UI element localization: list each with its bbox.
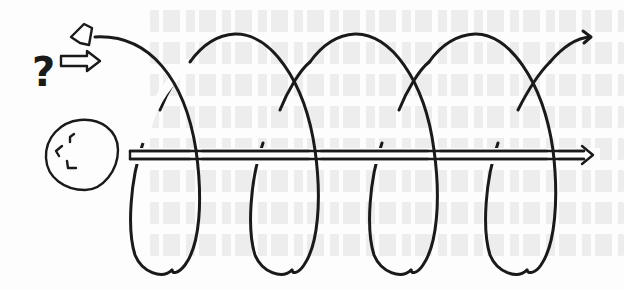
helix-diagram: ? xyxy=(0,0,624,290)
question-mark-icon: ? xyxy=(32,49,55,95)
axis-double-arrow xyxy=(120,146,600,164)
bell-icon xyxy=(71,24,92,45)
diagram-canvas: ? xyxy=(0,0,624,290)
hollow-arrow-icon xyxy=(61,51,100,71)
circle-face-icon xyxy=(46,120,118,190)
